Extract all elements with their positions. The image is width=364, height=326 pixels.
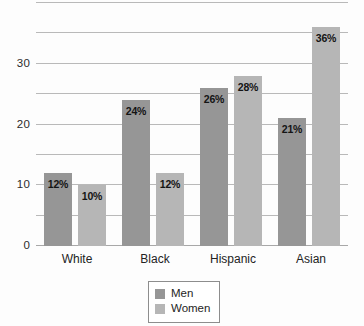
bar-group-hispanic: 26%28% [194, 2, 272, 246]
bar-white-women[interactable]: 10% [78, 185, 106, 246]
bar-group-asian: 21%36% [272, 2, 350, 246]
bar-value-label: 28% [234, 81, 262, 93]
y-axis-label-0: 0 [23, 239, 30, 251]
bar-value-label: 12% [44, 178, 72, 190]
bar-black-women[interactable]: 12% [156, 173, 184, 246]
bar-hispanic-men[interactable]: 26% [200, 88, 228, 246]
x-axis-label-black: Black [116, 252, 194, 266]
x-axis-label-hispanic: Hispanic [194, 252, 272, 266]
bar-asian-women[interactable]: 36% [312, 27, 340, 246]
bar-group-white: 12%10% [38, 2, 116, 246]
bar-black-men[interactable]: 24% [122, 100, 150, 246]
bar-value-label: 21% [278, 123, 306, 135]
legend-item-men[interactable]: Men [155, 287, 210, 301]
y-axis-label-30: 30 [17, 57, 30, 69]
bar-group-black: 24%12% [116, 2, 194, 246]
chart-legend: Men Women [148, 281, 220, 323]
y-axis-label-10: 10 [17, 178, 30, 190]
bar-white-men[interactable]: 12% [44, 173, 72, 246]
bar-value-label: 24% [122, 105, 150, 117]
bars-layer: 12%10%24%12%26%28%21%36% [36, 2, 348, 246]
y-axis-label-20: 20 [17, 118, 30, 130]
bar-chart: 0102030 12%10%24%12%26%28%21%36% WhiteBl… [0, 0, 364, 326]
bar-hispanic-women[interactable]: 28% [234, 76, 262, 246]
bar-value-label: 10% [78, 190, 106, 202]
plot-area: 0102030 12%10%24%12%26%28%21%36% [36, 2, 348, 246]
x-axis-label-white: White [38, 252, 116, 266]
bar-value-label: 36% [312, 32, 340, 44]
x-axis-label-asian: Asian [272, 252, 350, 266]
bar-value-label: 26% [200, 93, 228, 105]
legend-swatch-women-icon [155, 304, 165, 314]
legend-label-women: Women [171, 303, 210, 315]
legend-item-women[interactable]: Women [155, 302, 210, 316]
bar-value-label: 12% [156, 178, 184, 190]
legend-label-men: Men [171, 288, 193, 300]
legend-swatch-men-icon [155, 289, 165, 299]
bar-asian-men[interactable]: 21% [278, 118, 306, 246]
